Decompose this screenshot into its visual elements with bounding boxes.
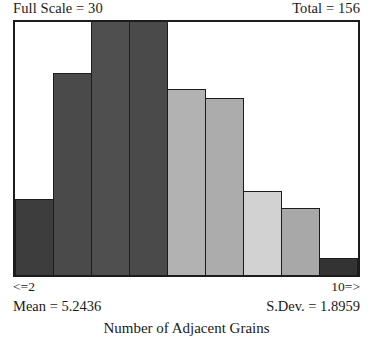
full-scale-label: Full Scale = 30 bbox=[13, 0, 103, 17]
x-axis-end-label: 10=> bbox=[331, 279, 360, 295]
plot-frame bbox=[13, 20, 360, 277]
total-label: Total = 156 bbox=[292, 0, 360, 17]
histogram-bar bbox=[15, 199, 55, 275]
histogram-panel: Full Scale = 30 Total = 156 <=2 10=> Mea… bbox=[0, 0, 373, 343]
histogram-header: Full Scale = 30 Total = 156 bbox=[13, 0, 360, 20]
histogram-bar bbox=[205, 98, 245, 275]
histogram-bar bbox=[243, 191, 283, 275]
histogram-bar bbox=[129, 22, 169, 275]
x-axis-end-labels: <=2 10=> bbox=[13, 279, 360, 298]
histogram-bar bbox=[319, 258, 359, 275]
chart-caption: Number of Adjacent Grains bbox=[0, 319, 373, 338]
histogram-bar bbox=[91, 22, 131, 275]
statistics-row: Mean = 5.2436 S.Dev. = 1.8959 bbox=[13, 297, 360, 317]
histogram-bar bbox=[281, 208, 321, 275]
x-axis-start-label: <=2 bbox=[13, 279, 35, 295]
bars-area bbox=[15, 22, 358, 275]
stdev-label: S.Dev. = 1.8959 bbox=[266, 297, 360, 315]
histogram-bar bbox=[53, 73, 93, 275]
histogram-bar bbox=[167, 89, 207, 275]
mean-label: Mean = 5.2436 bbox=[13, 297, 101, 315]
